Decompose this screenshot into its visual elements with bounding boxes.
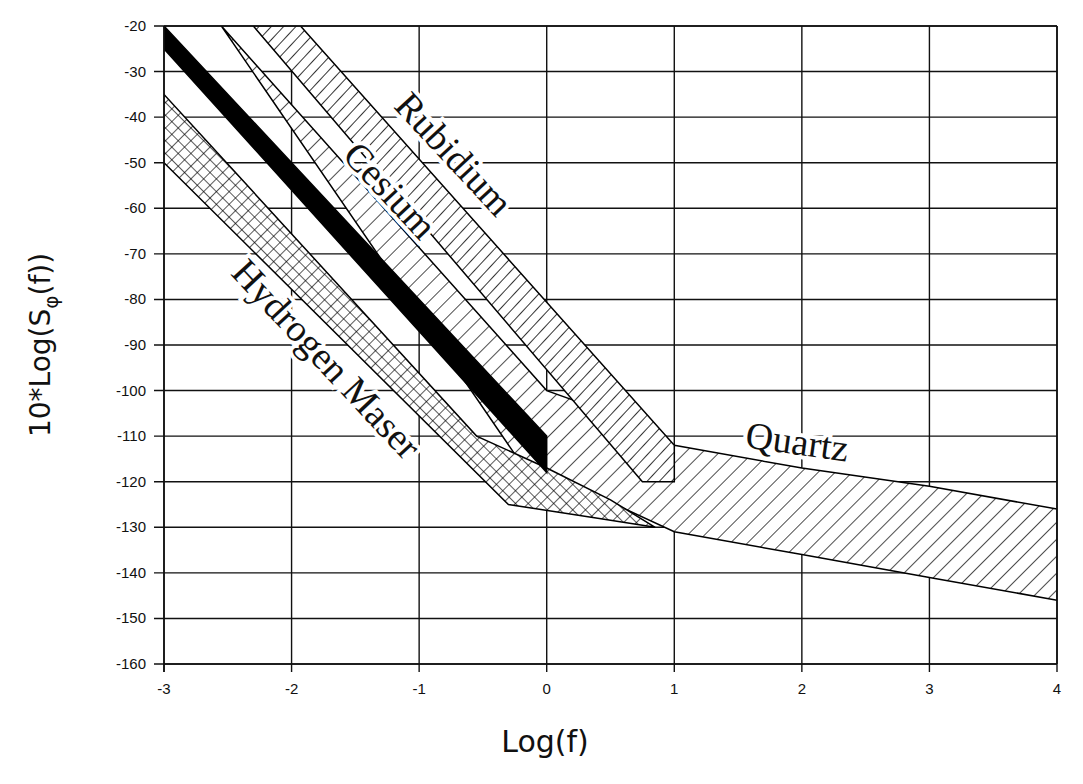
y-axis-title-suffix: (f)) <box>24 253 57 296</box>
y-tick-label: -100 <box>116 382 146 399</box>
y-axis-ticks: -20-30-40-50-60-70-80-90-100-110-120-130… <box>116 17 146 672</box>
x-tick-label: -1 <box>412 680 425 697</box>
y-tick-label: -40 <box>124 108 146 125</box>
y-axis-title-sub: φ <box>39 296 63 309</box>
x-tick-label: 3 <box>925 680 933 697</box>
x-tick-label: 2 <box>798 680 806 697</box>
x-tick-label: 4 <box>1053 680 1061 697</box>
y-tick-label: -150 <box>116 609 146 626</box>
svg-text:10*Log(Sφ(f)): 10*Log(Sφ(f)) <box>24 253 63 437</box>
y-tick-label: -110 <box>117 427 146 444</box>
y-tick-label: -60 <box>124 199 146 216</box>
x-tick-label: 1 <box>670 680 678 697</box>
y-tick-label: -50 <box>124 154 146 171</box>
x-tick-label: -3 <box>157 680 170 697</box>
y-tick-label: -70 <box>124 245 146 262</box>
y-tick-label: -90 <box>124 336 146 353</box>
y-tick-label: -80 <box>124 290 146 307</box>
y-tick-label: -160 <box>116 655 146 672</box>
y-tick-label: -120 <box>116 473 146 490</box>
y-tick-label: -30 <box>124 63 146 80</box>
y-tick-label: -140 <box>116 564 146 581</box>
y-tick-label: -130 <box>116 518 146 535</box>
x-tick-label: -2 <box>285 680 298 697</box>
x-axis-title: Log(f) <box>501 724 589 759</box>
x-axis-ticks: -3-2-101234 <box>157 680 1061 697</box>
y-axis-title-prefix: 10*Log(S <box>24 309 57 437</box>
x-tick-label: 0 <box>543 680 551 697</box>
phase-noise-chart: -3-2-101234 -20-30-40-50-60-70-80-90-100… <box>0 0 1083 784</box>
y-tick-label: -20 <box>124 17 146 34</box>
y-axis-title: 10*Log(Sφ(f)) <box>24 253 63 437</box>
